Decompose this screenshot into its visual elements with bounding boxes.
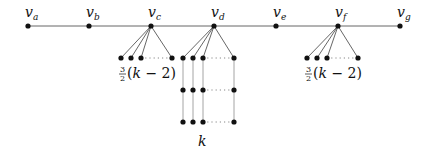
grid-vertex <box>200 119 205 124</box>
spine-vertex-vc <box>148 23 153 28</box>
leaf-vertex <box>169 55 174 60</box>
grid-vertex <box>180 119 185 124</box>
grid-vertex <box>180 87 185 92</box>
grid-root-edge <box>203 26 214 58</box>
expression: (k − 2) <box>313 65 362 81</box>
spine-vertex-vb <box>86 23 91 28</box>
grid-root-edge <box>193 26 214 58</box>
star-edge <box>327 26 338 58</box>
vertex-label-ve: ve <box>273 4 286 22</box>
grid-vertex <box>200 87 205 92</box>
fraction-denominator: 2 <box>120 74 125 83</box>
star-edge <box>307 26 338 58</box>
star-edge <box>121 26 151 58</box>
vertex-label-vg: vg <box>397 4 411 22</box>
star-edge <box>131 26 151 58</box>
vertex-label-va: va <box>25 4 38 22</box>
leaf-vertex <box>314 55 319 60</box>
grid-size-label: k <box>198 133 206 149</box>
star-size-label: 32(k − 2) <box>119 65 176 83</box>
leaf-vertex <box>138 55 143 60</box>
grid-vertex <box>190 55 195 60</box>
graph-diagram: 32(k − 2)32(k − 2)kvavbvcvdvevfvg <box>0 0 429 149</box>
expression: (k − 2) <box>127 65 176 81</box>
grid-vertex <box>190 87 195 92</box>
fraction-denominator: 2 <box>306 74 311 83</box>
star-edge <box>151 26 172 58</box>
grid-vertex <box>200 55 205 60</box>
vertex-label-vc: vc <box>148 4 161 22</box>
spine-vertex-ve <box>273 23 278 28</box>
star-edge <box>338 26 358 58</box>
star-size-label: 32(k − 2) <box>305 65 362 83</box>
star-edge <box>317 26 338 58</box>
fraction-numerator: 3 <box>120 65 125 74</box>
spine-vertex-va <box>25 23 30 28</box>
spine-vertex-vd <box>211 23 216 28</box>
vertex-label-vb: vb <box>86 4 100 22</box>
leaf-vertex <box>304 55 309 60</box>
grid-root-edge <box>183 26 214 58</box>
leaf-vertex <box>355 55 360 60</box>
grid-root-edge <box>214 26 234 58</box>
grid-vertex <box>231 55 236 60</box>
leaf-vertex <box>118 55 123 60</box>
grid-vertex <box>231 119 236 124</box>
spine-vertex-vf <box>335 23 340 28</box>
leaf-vertex <box>324 55 329 60</box>
vertex-label-vf: vf <box>335 4 348 22</box>
spine-vertex-vg <box>397 23 402 28</box>
grid-vertex <box>231 87 236 92</box>
fraction-numerator: 3 <box>306 65 311 74</box>
leaf-vertex <box>128 55 133 60</box>
grid-vertex <box>180 55 185 60</box>
vertex-label-vd: vd <box>211 4 225 22</box>
grid-vertex <box>190 119 195 124</box>
